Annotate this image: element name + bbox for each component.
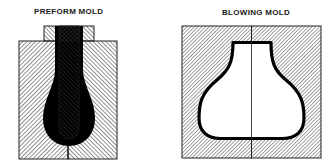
blowing-mold xyxy=(182,26,321,158)
core-rod xyxy=(59,26,79,139)
diagram-canvas xyxy=(0,0,335,166)
preform-mold xyxy=(19,26,117,159)
core-rod-top xyxy=(59,26,79,41)
